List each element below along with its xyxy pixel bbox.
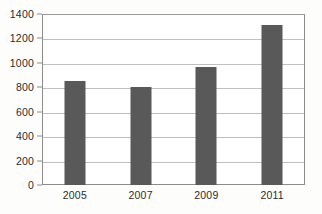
bar: [64, 81, 85, 185]
x-axis-tick-label: 2007: [129, 189, 153, 201]
y-axis-tick-mark: [37, 111, 42, 112]
bar: [130, 87, 151, 185]
y-axis-tick-label: 200: [16, 155, 34, 167]
x-axis-tick-label: 2005: [63, 189, 87, 201]
y-axis-tick-label: 0: [28, 179, 34, 191]
bar-chart: 0200400600800100012001400 20052007200920…: [0, 0, 322, 214]
y-axis-tick-mark: [37, 38, 42, 39]
y-axis-tick-mark: [37, 160, 42, 161]
y-axis-tick-label: 1000: [10, 57, 34, 69]
bars-layer: [42, 14, 305, 185]
y-axis-tick-label: 800: [16, 81, 34, 93]
y-axis-tick-label: 600: [16, 106, 34, 118]
y-axis-tick-mark: [37, 14, 42, 15]
y-axis-tick-label: 400: [16, 130, 34, 142]
y-axis-tick-mark: [37, 185, 42, 186]
y-axis-tick-mark: [37, 136, 42, 137]
y-axis: 0200400600800100012001400: [0, 0, 42, 214]
bar: [196, 67, 217, 185]
y-axis-tick-mark: [37, 87, 42, 88]
x-axis-tick-label: 2009: [194, 189, 218, 201]
y-axis-tick-mark: [37, 62, 42, 63]
x-axis-tick-label: 2011: [260, 189, 283, 201]
y-axis-tick-label: 1200: [10, 32, 34, 44]
bar: [262, 25, 283, 185]
x-axis: 2005200720092011: [42, 187, 305, 211]
y-axis-tick-label: 1400: [10, 8, 34, 20]
